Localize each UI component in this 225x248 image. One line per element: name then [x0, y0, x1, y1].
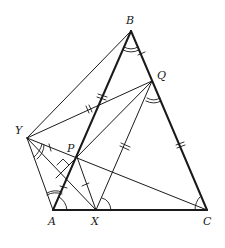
- label-X: X: [90, 215, 100, 228]
- angle-arc-B: [124, 47, 138, 49]
- angle-arc-A: [59, 197, 67, 210]
- tick-QX-1: [120, 146, 129, 150]
- segment-YQ: [27, 81, 152, 138]
- segment-QX: [96, 81, 152, 210]
- label-P: P: [66, 142, 75, 155]
- tick-QX-2: [121, 143, 130, 147]
- angle-arc-C: [195, 197, 200, 210]
- label-Y: Y: [15, 124, 24, 137]
- segment-BC: [131, 31, 207, 210]
- label-Q: Q: [157, 69, 166, 82]
- right-angle-mark: [57, 159, 69, 171]
- geometry-diagram: B Q Y P A X C: [0, 0, 225, 248]
- angle-arc-Q-2: [146, 101, 161, 103]
- segment-QP: [77, 81, 152, 157]
- tick-PX: [82, 183, 89, 186]
- angle-arc-X: [102, 198, 111, 210]
- angle-arc-B-2: [123, 50, 139, 52]
- label-C: C: [203, 215, 212, 228]
- angle-arc-Q: [147, 98, 160, 100]
- segment-YB: [27, 31, 131, 138]
- label-B: B: [125, 14, 134, 27]
- label-A: A: [47, 215, 56, 228]
